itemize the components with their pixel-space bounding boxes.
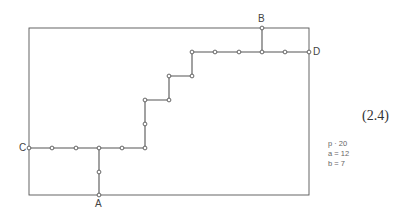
lattice-node [143, 122, 147, 126]
lattice-node [74, 146, 78, 150]
label-A: A [95, 199, 102, 209]
lattice-node [260, 50, 264, 54]
lattice-node [260, 26, 264, 30]
lattice-node [143, 146, 147, 150]
parameter-list: p · 20 a = 12 b = 7 [328, 139, 349, 169]
lattice-node [97, 170, 101, 174]
lattice-node [50, 146, 54, 150]
parameter-a: a = 12 [328, 149, 349, 159]
lattice-node [283, 50, 287, 54]
lattice-node [143, 98, 147, 102]
lattice-node [97, 146, 101, 150]
boundary-rectangle [29, 28, 309, 195]
parameter-p: p · 20 [328, 139, 349, 149]
label-C: C [19, 143, 26, 153]
label-D: D [313, 47, 320, 57]
lattice-node [167, 74, 171, 78]
lattice-node [167, 98, 171, 102]
parameter-b: b = 7 [328, 159, 349, 169]
lattice-node [190, 50, 194, 54]
lattice-node [27, 146, 31, 150]
lattice-node [97, 193, 101, 197]
lattice-node [307, 50, 311, 54]
lattice-node [120, 146, 124, 150]
label-B: B [258, 14, 265, 24]
lattice-node [213, 50, 217, 54]
path-lines [29, 28, 309, 195]
lattice-node [190, 74, 194, 78]
lattice-path-diagram [0, 0, 417, 215]
equation-number: (2.4) [362, 108, 389, 124]
lattice-node [237, 50, 241, 54]
